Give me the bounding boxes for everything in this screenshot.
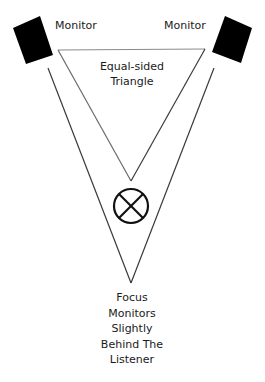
left-monitor-icon (13, 16, 53, 64)
caption-line: Focus (82, 290, 182, 306)
caption-line: Slightly (82, 321, 182, 337)
equal-sided-triangle (58, 49, 205, 50)
caption-line: Behind The (82, 337, 182, 353)
triangle-label: Equal-sided Triangle (90, 59, 174, 89)
circle-x-listener-icon (114, 189, 148, 223)
left-focus-line (48, 68, 131, 283)
right-monitor-icon (212, 16, 252, 63)
right-focus-line (131, 68, 214, 283)
triangle-label-line1: Equal-sided (90, 59, 174, 74)
focus-caption: Focus Monitors Slightly Behind The Liste… (82, 290, 182, 368)
triangle-label-line2: Triangle (90, 74, 174, 89)
caption-line: Listener (82, 352, 182, 368)
right-monitor-label: Monitor (164, 18, 206, 33)
caption-line: Monitors (82, 306, 182, 322)
left-monitor-label: Monitor (55, 18, 97, 33)
